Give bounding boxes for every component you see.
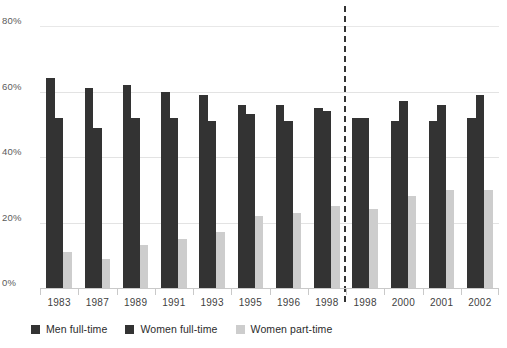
y-axis-tick-label: 0% <box>2 277 38 288</box>
bar-men-full-time-1983 <box>46 78 55 288</box>
bar-men-full-time-2002 <box>467 118 476 288</box>
bar-women-part-time-1996 <box>293 213 302 288</box>
x-axis-tick-1991-3 <box>155 288 193 295</box>
x-axis-tick-1998-8 <box>346 288 384 295</box>
y-axis-tick-label: 80% <box>2 15 38 26</box>
x-axis-label-1998-8: 1998 <box>346 297 384 308</box>
x-axis-tick-1996-6 <box>270 288 308 295</box>
bar-women-full-time-1989 <box>131 118 140 288</box>
bar-groups <box>40 26 499 288</box>
bar-men-full-time-1998 <box>352 118 361 288</box>
bar-group-1991-3 <box>155 26 193 288</box>
series-break-divider <box>344 6 346 302</box>
bar-women-part-time-1989 <box>140 245 149 288</box>
bar-women-part-time-1995 <box>255 216 264 288</box>
x-axis-label-1993-4: 1993 <box>193 297 231 308</box>
bar-women-part-time-1983 <box>63 252 72 288</box>
y-axis-tick-label: 60% <box>2 81 38 92</box>
bar-group-2001-10 <box>423 26 461 288</box>
bar-women-part-time-2002 <box>484 190 493 288</box>
bar-men-full-time-1987 <box>85 88 94 288</box>
chart-legend: Men full-timeWomen full-timeWomen part-t… <box>31 323 332 335</box>
x-axis-labels: 1983198719891991199319951996199819982000… <box>40 297 499 308</box>
y-axis-tick-label: 20% <box>2 212 38 223</box>
bar-group-1989-2 <box>117 26 155 288</box>
square-swatch-icon <box>125 325 134 334</box>
bar-women-full-time-1995 <box>246 114 255 288</box>
bar-men-full-time-2001 <box>429 121 438 288</box>
x-axis-tick-1993-4 <box>193 288 231 295</box>
bar-group-1996-6 <box>270 26 308 288</box>
x-axis-tick-2002-11 <box>461 288 499 295</box>
x-axis-tick-2001-10 <box>423 288 461 295</box>
bar-group-2002-11 <box>461 26 499 288</box>
bar-women-part-time-2000 <box>408 196 417 288</box>
bar-group-2000-9 <box>384 26 422 288</box>
x-axis-label-2000-9: 2000 <box>384 297 422 308</box>
bar-women-full-time-2001 <box>437 105 446 288</box>
bar-women-part-time-1991 <box>178 239 187 288</box>
x-axis-tick-1995-5 <box>231 288 269 295</box>
x-axis-label-2001-10: 2001 <box>423 297 461 308</box>
legend-item-men-full-time[interactable]: Men full-time <box>31 323 107 335</box>
bar-women-full-time-1998 <box>361 118 370 288</box>
x-axis-label-1996-6: 1996 <box>270 297 308 308</box>
x-axis-label-1995-5: 1995 <box>231 297 269 308</box>
bar-women-part-time-1998 <box>369 209 378 288</box>
legend-item-label: Men full-time <box>46 323 107 335</box>
bar-men-full-time-1995 <box>238 105 247 288</box>
x-axis-ticks <box>40 288 499 295</box>
square-swatch-icon <box>236 325 245 334</box>
bar-group-1983-0 <box>40 26 78 288</box>
x-axis-tick-1989-2 <box>117 288 155 295</box>
bar-group-1998-8 <box>346 26 384 288</box>
bar-men-full-time-1993 <box>199 95 208 288</box>
bar-women-part-time-1987 <box>102 259 111 288</box>
bar-women-full-time-1993 <box>208 121 217 288</box>
x-axis-label-1989-2: 1989 <box>117 297 155 308</box>
bar-women-full-time-1998 <box>323 111 332 288</box>
square-swatch-icon <box>31 325 40 334</box>
x-axis-label-1998-7: 1998 <box>308 297 346 308</box>
x-axis-tick-2000-9 <box>384 288 422 295</box>
x-axis-tick-1983-0 <box>40 288 78 295</box>
bar-men-full-time-1998 <box>314 108 323 288</box>
x-axis-tick-1998-7 <box>308 288 346 295</box>
bar-men-full-time-1991 <box>161 92 170 289</box>
bar-women-full-time-1987 <box>93 128 102 288</box>
x-axis-label-1987-1: 1987 <box>78 297 116 308</box>
legend-item-women-part-time[interactable]: Women part-time <box>236 323 333 335</box>
bar-group-1993-4 <box>193 26 231 288</box>
bar-group-1987-1 <box>78 26 116 288</box>
bar-chart: 0%20%40%60%80% 1983198719891991199319951… <box>0 0 507 348</box>
bar-men-full-time-2000 <box>391 121 400 288</box>
x-axis-tick-1987-1 <box>78 288 116 295</box>
legend-item-women-full-time[interactable]: Women full-time <box>125 323 217 335</box>
x-axis-label-1983-0: 1983 <box>40 297 78 308</box>
x-axis-label-2002-11: 2002 <box>461 297 499 308</box>
bar-women-full-time-1996 <box>284 121 293 288</box>
bar-group-1998-7 <box>308 26 346 288</box>
y-axis-tick-label: 40% <box>2 146 38 157</box>
bar-women-part-time-2001 <box>446 190 455 288</box>
bar-men-full-time-1996 <box>276 105 285 288</box>
x-axis-label-1991-3: 1991 <box>155 297 193 308</box>
bar-women-part-time-1998 <box>331 206 340 288</box>
bar-women-full-time-2000 <box>399 101 408 288</box>
bar-women-full-time-1991 <box>170 118 179 288</box>
legend-item-label: Women part-time <box>251 323 333 335</box>
legend-item-label: Women full-time <box>140 323 217 335</box>
bar-women-part-time-1993 <box>216 232 225 288</box>
bar-group-1995-5 <box>231 26 269 288</box>
bar-women-full-time-1983 <box>55 118 64 288</box>
bar-women-full-time-2002 <box>476 95 485 288</box>
bar-men-full-time-1989 <box>123 85 132 288</box>
